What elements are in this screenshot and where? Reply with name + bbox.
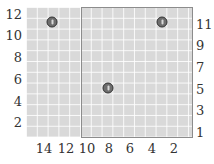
left-axis-tick-label: 6 (0, 73, 22, 86)
bottom-axis-tick-label: 12 (58, 142, 75, 155)
bottom-axis-tick-label: 6 (126, 142, 134, 155)
bottom-axis-tick-label: 8 (105, 142, 113, 155)
selection-rectangle (81, 7, 193, 138)
circle-marker-icon (157, 17, 168, 28)
bottom-axis-tick-label: 2 (170, 142, 178, 155)
bottom-axis-tick-label: 10 (79, 142, 96, 155)
left-axis-tick-label: 10 (0, 29, 22, 42)
right-axis-tick-label: 5 (196, 83, 204, 96)
right-axis-tick-label: 7 (196, 61, 204, 74)
bottom-axis-tick-label: 4 (148, 142, 156, 155)
left-axis-tick-label: 8 (0, 51, 22, 64)
right-axis-tick-label: 3 (196, 104, 204, 117)
right-axis-tick-label: 1 (196, 126, 204, 139)
circle-marker-icon (103, 83, 114, 94)
right-axis-tick-label: 9 (196, 39, 204, 52)
circle-marker-icon (47, 17, 58, 28)
left-axis-tick-label: 12 (0, 8, 22, 21)
left-axis-tick-label: 4 (0, 95, 22, 108)
right-axis-tick-label: 11 (196, 18, 213, 31)
left-axis-tick-label: 2 (0, 116, 22, 129)
bottom-axis-tick-label: 14 (36, 142, 53, 155)
